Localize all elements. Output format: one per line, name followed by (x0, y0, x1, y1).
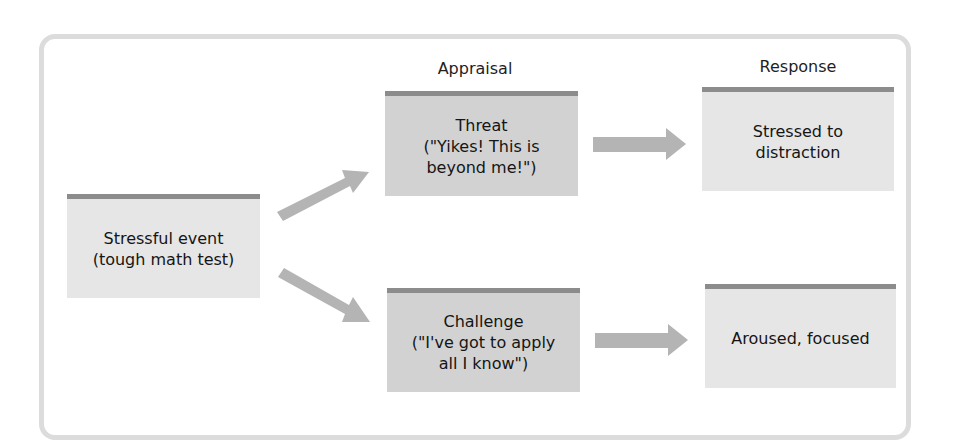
challenge-appraisal-box: Challenge ("I've got to apply all I know… (387, 288, 580, 392)
aroused-focused-box: Aroused, focused (705, 284, 896, 388)
appraisal-heading: Appraisal (372, 59, 578, 78)
response-heading: Response (702, 57, 894, 76)
stressful-event-box: Stressful event (tough math test) (67, 194, 260, 298)
stressed-to-distraction-box: Stressed to distraction (702, 87, 894, 191)
threat-appraisal-box: Threat ("Yikes! This is beyond me!") (385, 91, 578, 196)
